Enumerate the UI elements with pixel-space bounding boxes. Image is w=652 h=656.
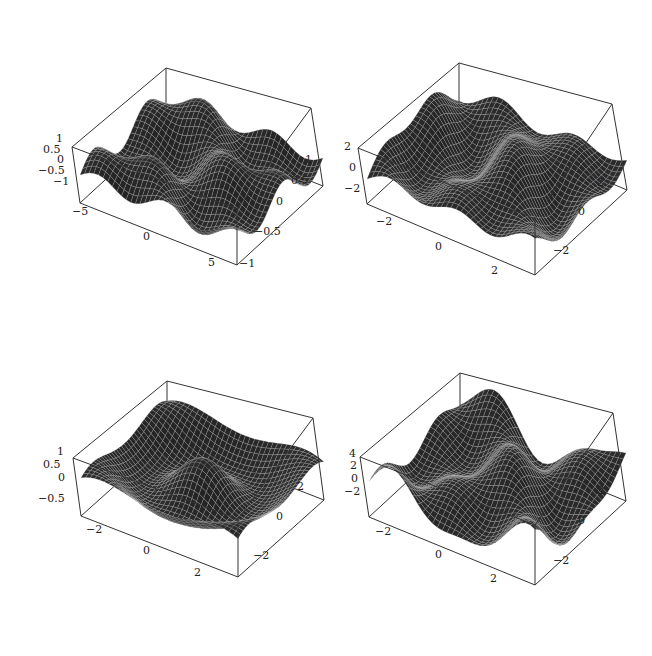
plot2-y-tick-label: 2 xyxy=(597,177,604,188)
plot4-z-tick-label: −2 xyxy=(344,486,360,497)
plot2-x-tick-label: 2 xyxy=(491,265,498,276)
plot3-z-tick-label: 1 xyxy=(57,446,64,457)
surface-plot-top-right xyxy=(358,63,627,275)
plot3-z-tick-label: −0.5 xyxy=(38,493,65,504)
surface-mesh xyxy=(80,98,323,235)
plot3-z-tick-label: 0 xyxy=(58,472,65,483)
plot2-z-tick-label: 0 xyxy=(349,162,356,173)
surface-plot-bottom-left xyxy=(73,381,324,577)
plot4-z-tick-label: 4 xyxy=(349,448,356,459)
plot4-y-tick-label: 0 xyxy=(578,515,585,526)
surface-plot-top-left xyxy=(72,68,323,265)
surface-mesh xyxy=(367,92,627,241)
plot4-x-tick-label: 2 xyxy=(490,573,497,584)
plot2-y-tick-label: 0 xyxy=(578,206,585,217)
surface-plot-bottom-right xyxy=(360,373,626,585)
plot4-z-tick-label: 0 xyxy=(351,473,358,484)
plot3-x-tick-label: 2 xyxy=(194,567,201,578)
plot2-z-tick-label: −2 xyxy=(344,183,360,194)
plot3-x-tick-label: 0 xyxy=(143,545,150,556)
plot2-x-tick-label: −2 xyxy=(376,216,392,227)
plot4-y-tick-label: −2 xyxy=(553,555,569,566)
plot1-y-tick-label: 1 xyxy=(305,154,312,165)
plot1-x-tick-label: −5 xyxy=(72,206,88,217)
plot3-x-tick-label: −2 xyxy=(86,524,102,535)
plot2-x-tick-label: 0 xyxy=(435,241,442,252)
surface-mesh xyxy=(369,389,626,546)
plot3-y-tick-label: −2 xyxy=(253,550,269,561)
plot1-y-tick-label: −0.5 xyxy=(254,226,281,237)
figure-four-surface-plots: 10.50−0.5−1−50510.50−0.5−120−2−20220−210… xyxy=(0,0,652,656)
plot4-z-tick-label: 2 xyxy=(350,460,357,471)
plot4-x-tick-label: −2 xyxy=(375,526,391,537)
plot1-y-tick-label: 0.5 xyxy=(291,175,309,186)
plot4-y-tick-label: 2 xyxy=(597,485,604,496)
plot2-z-tick-label: 2 xyxy=(344,141,351,152)
plot1-y-tick-label: 0 xyxy=(276,196,283,207)
plot4-x-tick-label: 0 xyxy=(435,549,442,560)
plot3-y-tick-label: 2 xyxy=(297,481,304,492)
plot3-z-tick-label: 0.5 xyxy=(43,459,61,470)
plot3-y-tick-label: 0 xyxy=(276,511,283,522)
plot1-z-tick-label: −1 xyxy=(53,176,69,187)
plot1-y-tick-label: −1 xyxy=(239,258,255,269)
plot2-y-tick-label: −2 xyxy=(553,245,569,256)
plot1-x-tick-label: 0 xyxy=(143,231,150,242)
plot1-x-tick-label: 5 xyxy=(208,257,215,268)
